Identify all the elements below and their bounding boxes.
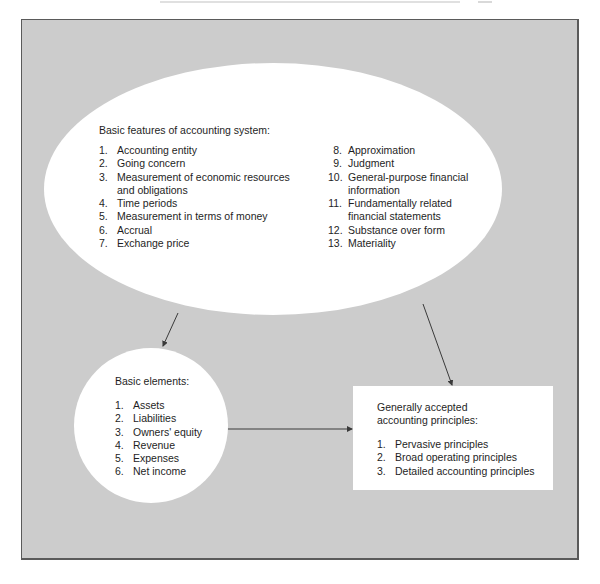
feature-item: 11.Fundamentally related financial state… <box>328 197 468 224</box>
feature-item: 9.Judgment <box>328 157 468 170</box>
feature-item: 12.Substance over form <box>328 224 468 237</box>
element-item: 4.Revenue <box>115 439 202 452</box>
features-list-left: 1.Accounting entity 2.Going concern 3.Me… <box>99 144 290 250</box>
page: Basic features of accounting system: 1.A… <box>0 0 600 584</box>
features-title: Basic features of accounting system: <box>99 124 270 137</box>
clipped-running-header <box>160 0 460 3</box>
gaap-title: Generally accepted accounting principles… <box>377 401 478 428</box>
element-item: 5.Expenses <box>115 452 202 465</box>
feature-item: 10.General-purpose financial information <box>328 171 468 198</box>
feature-item: 7.Exchange price <box>99 237 290 250</box>
feature-item: 2.Going concern <box>99 157 290 170</box>
feature-item: 1.Accounting entity <box>99 144 290 157</box>
elements-title: Basic elements: <box>115 375 189 388</box>
element-item: 2.Liabilities <box>115 412 202 425</box>
clipped-page-number <box>478 0 492 3</box>
feature-item: 5.Measurement in terms of money <box>99 210 290 223</box>
elements-list: 1.Assets 2.Liabilities 3.Owners' equity … <box>115 399 202 479</box>
gaap-item: 2.Broad operating principles <box>377 451 535 464</box>
feature-item: 6.Accrual <box>99 224 290 237</box>
element-item: 6.Net income <box>115 465 202 478</box>
element-item: 3.Owners' equity <box>115 426 202 439</box>
feature-item: 3.Measurement of economic resources and … <box>99 171 290 198</box>
features-list-right: 8.Approximation 9.Judgment 10.General-pu… <box>328 144 468 250</box>
feature-item: 4.Time periods <box>99 197 290 210</box>
element-item: 1.Assets <box>115 399 202 412</box>
gaap-item: 1.Pervasive principles <box>377 438 535 451</box>
gaap-item: 3.Detailed accounting principles <box>377 465 535 478</box>
feature-item: 13.Materiality <box>328 237 468 250</box>
gaap-list: 1.Pervasive principles 2.Broad operating… <box>377 438 535 478</box>
feature-item: 8.Approximation <box>328 144 468 157</box>
